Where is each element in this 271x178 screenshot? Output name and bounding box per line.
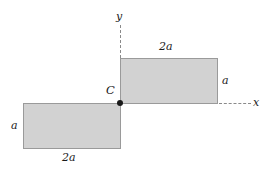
upper-rectangle-height-label: a [222,75,229,86]
y-axis-label: y [116,11,122,22]
upper-rectangle-width-label: 2a [159,41,173,52]
lower-rectangle-width-label: 2a [62,152,76,163]
centroid-point-marker [117,100,123,106]
x-axis-dashed-line [219,103,251,104]
upper-right-rectangle [120,58,218,104]
figure-canvas: y x C 2a a a 2a [0,0,271,178]
centroid-label: C [106,85,115,96]
x-axis-label: x [253,97,259,108]
y-axis-dashed-line [120,25,121,58]
lower-left-rectangle [23,103,121,149]
lower-rectangle-height-label: a [11,120,18,131]
